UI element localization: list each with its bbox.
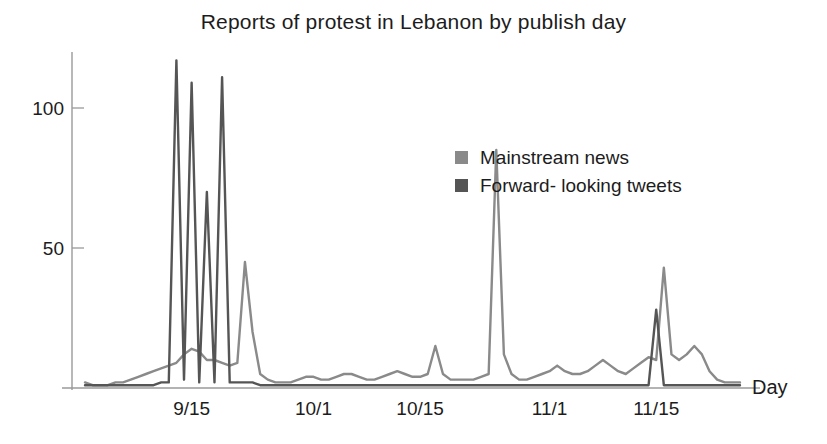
chart-plot-area: 50100 9/1510/110/1511/111/15 Day (0, 0, 827, 444)
axes-layer (62, 52, 760, 390)
series-line-forward-looking-tweets (85, 60, 740, 385)
legend-swatch-icon (455, 179, 468, 192)
chart-legend: Mainstream news Forward- looking tweets (455, 148, 682, 195)
chart-container: Reports of protest in Lebanon by publish… (0, 0, 827, 444)
data-series-layer (85, 60, 740, 385)
legend-label-forward-looking-tweets: Forward- looking tweets (480, 176, 682, 195)
x-axis-tick-label: 10/15 (396, 398, 444, 419)
legend-swatch-icon (455, 151, 468, 164)
legend-label-mainstream-news: Mainstream news (480, 148, 629, 167)
x-axis-tick-label: 9/15 (173, 398, 210, 419)
y-axis-tick-label: 50 (43, 238, 64, 259)
legend-item-forward-looking-tweets: Forward- looking tweets (455, 176, 682, 195)
legend-item-mainstream-news: Mainstream news (455, 148, 682, 167)
x-axis-tick-label: 11/15 (633, 398, 679, 419)
x-tick-layer: 9/1510/110/1511/111/15 (173, 398, 679, 419)
x-axis-title: Day (752, 376, 788, 398)
y-axis-tick-label: 100 (32, 98, 64, 119)
x-axis-tick-label: 11/1 (532, 398, 568, 419)
y-tick-layer: 50100 (32, 98, 84, 259)
x-axis-tick-label: 10/1 (295, 398, 332, 419)
